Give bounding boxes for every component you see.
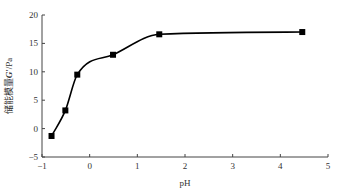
data-point-marker: [156, 31, 162, 37]
chart: −1012345−505101520 pH 储能模量G′/Pa: [0, 0, 337, 196]
y-tick-label: 0: [34, 124, 39, 134]
data-point-marker: [299, 29, 305, 35]
x-tick-label: 0: [87, 161, 92, 171]
y-tick-label: 20: [29, 10, 39, 20]
y-tick-label: −5: [28, 152, 38, 162]
y-tick-label: 10: [29, 67, 39, 77]
data-point-marker: [74, 72, 80, 78]
x-tick-label: −1: [37, 161, 47, 171]
x-tick-label: 3: [230, 161, 235, 171]
x-tick-label: 2: [183, 161, 188, 171]
x-tick-label: 4: [278, 161, 283, 171]
x-tick-label: 5: [326, 161, 331, 171]
plot-area: [49, 29, 306, 139]
y-tick-label: 5: [34, 95, 39, 105]
data-point-marker: [62, 107, 68, 113]
y-axis-title-prefix: 储能模量: [3, 78, 14, 114]
series-line: [52, 32, 303, 136]
x-axis-title: pH: [180, 178, 192, 188]
data-point-marker: [49, 133, 55, 139]
data-point-marker: [110, 52, 116, 58]
y-axis-title-unit: /Pa: [4, 58, 14, 70]
y-axis-title: 储能模量G′/Pa: [3, 58, 14, 115]
x-tick-label: 1: [135, 161, 140, 171]
y-tick-label: 15: [29, 38, 39, 48]
